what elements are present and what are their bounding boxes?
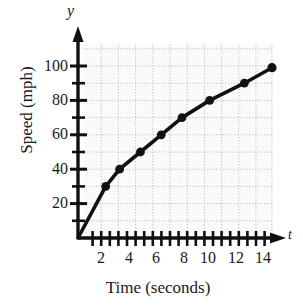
data-point — [136, 148, 145, 157]
data-point — [101, 182, 110, 191]
x-tick-label-8: 8 — [172, 249, 196, 267]
data-point — [267, 63, 276, 72]
y-axis-variable-label: y — [67, 2, 74, 20]
data-point — [178, 113, 187, 122]
x-tick-label-10: 10 — [196, 249, 220, 267]
x-tick-label-6: 6 — [144, 249, 168, 267]
x-tick-label-2: 2 — [89, 249, 113, 267]
x-axis-title: Time (seconds) — [48, 278, 268, 298]
data-point — [115, 165, 124, 174]
chart-container: 100 80 60 40 20 2 4 6 8 10 12 14 y t Spe… — [0, 0, 303, 308]
x-tick-label-14: 14 — [251, 249, 275, 267]
y-tick-label-20: 20 — [28, 194, 68, 212]
data-point — [157, 130, 166, 139]
x-tick-label-4: 4 — [117, 249, 141, 267]
y-axis-title: Speed (mph) — [17, 25, 37, 195]
x-tick-label-12: 12 — [224, 249, 248, 267]
x-axis-variable-label: t — [288, 227, 292, 243]
x-axis-ticks — [93, 231, 265, 246]
data-point — [240, 79, 249, 88]
y-axis — [73, 26, 84, 238]
minor-gridlines — [84, 44, 272, 238]
data-point — [205, 96, 214, 105]
